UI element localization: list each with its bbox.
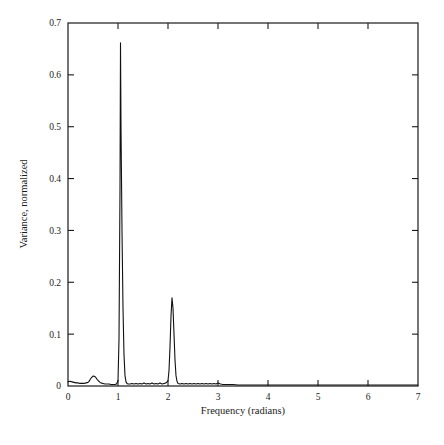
y-tick-label: 0.2 [49, 278, 61, 288]
x-tick-label: 0 [66, 392, 71, 402]
y-tick-label: 0 [56, 381, 61, 391]
x-axis-title: Frequency (radians) [201, 405, 286, 417]
x-tick-label: 2 [166, 392, 171, 402]
y-tick-label: 0.6 [49, 70, 61, 80]
x-tick-label: 1 [116, 392, 121, 402]
y-tick-label: 0.7 [49, 18, 61, 28]
spectral-plot-figure: 01234567 00.10.20.30.40.50.60.7 Frequenc… [0, 0, 444, 445]
y-axis-title: Variance, normalized [18, 159, 29, 249]
x-tick-label: 3 [216, 392, 221, 402]
chart-canvas: 01234567 00.10.20.30.40.50.60.7 Frequenc… [0, 0, 444, 445]
y-tick-label: 0.1 [49, 330, 61, 340]
x-tick-label: 7 [416, 392, 421, 402]
x-tick-label: 5 [316, 392, 321, 402]
x-tick-label: 4 [266, 392, 271, 402]
y-tick-label: 0.3 [49, 226, 61, 236]
x-tick-label: 6 [366, 392, 371, 402]
figure-background [0, 0, 444, 445]
y-tick-label: 0.4 [49, 174, 61, 184]
y-tick-label: 0.5 [49, 122, 61, 132]
